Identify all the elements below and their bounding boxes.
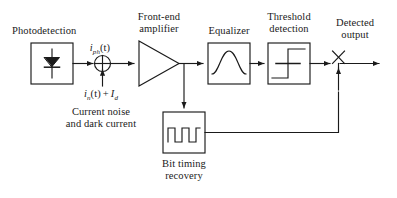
wire-bit-timing-feedback (205, 92, 339, 133)
switch-icon (333, 51, 345, 69)
dark-current-subscript: d (114, 94, 118, 102)
label-threshold-detection-line2: detection (269, 23, 308, 35)
label-equalizer: Equalizer (208, 25, 249, 37)
label-detected-output-line1: Detected (336, 17, 374, 29)
label-noise-plus-dark: in(t)+Id (84, 88, 118, 103)
label-current-noise-line2: and dark current (66, 118, 136, 130)
figure-canvas: Photodetection Front-end amplifier Equal… (0, 0, 397, 198)
label-photodetection: Photodetection (12, 25, 76, 37)
photocurrent-argument: (t) (100, 42, 110, 53)
label-front-end-amplifier-line1: Front-end (138, 11, 180, 23)
label-threshold-detection-line1: Threshold (267, 11, 310, 23)
equalizer-box (208, 43, 250, 84)
triangle-amplifier-icon (139, 41, 179, 86)
label-photocurrent: iph(t) (90, 42, 110, 57)
label-detected-output-line2: output (341, 29, 368, 41)
bit-timing-box (163, 112, 205, 153)
noise-argument: (t) (91, 88, 101, 99)
label-bit-timing-recovery-line1: Bit timing (162, 158, 206, 170)
label-bit-timing-recovery-line2: recovery (165, 170, 203, 182)
label-current-noise-line1: Current noise (72, 106, 130, 118)
label-front-end-amplifier-line2: amplifier (139, 23, 178, 35)
noise-operator: + (101, 88, 111, 99)
